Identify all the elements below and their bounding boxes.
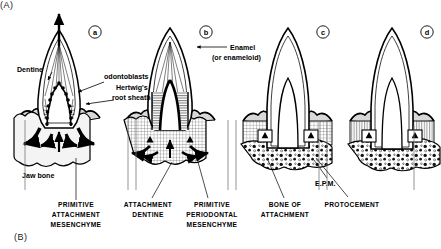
label-epm: E.P.M.	[315, 180, 335, 188]
svg-text:PERIODONTAL: PERIODONTAL	[186, 211, 237, 218]
label-dentine: Dentine	[17, 66, 43, 74]
caption-row: PRIMITIVE ATTACHMENT MESENCHYME ATTACHME…	[51, 201, 380, 228]
caption-primitive-attachment-mesenchyme: PRIMITIVE ATTACHMENT MESENCHYME	[51, 201, 102, 228]
svg-text:ATTACHMENT: ATTACHMENT	[52, 211, 100, 218]
svg-text:PRIMITIVE: PRIMITIVE	[194, 201, 230, 208]
svg-text:ATTACHMENT: ATTACHMENT	[124, 201, 172, 208]
label-enamel: Enamel	[230, 44, 255, 52]
svg-text:BONE OF: BONE OF	[269, 201, 302, 208]
svg-text:PRIMITIVE: PRIMITIVE	[58, 201, 94, 208]
svg-text:DENTINE: DENTINE	[132, 211, 164, 218]
label-hertwigs: Hertwig's	[116, 84, 148, 92]
caption-attachment-dentine: ATTACHMENT DENTINE	[124, 201, 172, 218]
svg-text:PROTOCEMENT: PROTOCEMENT	[324, 201, 379, 208]
caption-bone-of-attachment: BONE OF ATTACHMENT	[261, 201, 309, 218]
label-enameloid: (or enameloid)	[212, 54, 262, 62]
panel-d-letter: d	[425, 28, 430, 37]
panel-a: a	[14, 14, 101, 167]
label-jaw-bone: Jaw bone	[22, 172, 54, 180]
panel-b-letter: b	[204, 28, 209, 37]
label-root-sheath: root sheath	[112, 94, 151, 102]
caption-primitive-periodontal-mesenchyme: PRIMITIVE PERIODONTAL MESENCHYME	[186, 201, 237, 228]
panel-d: d	[348, 26, 440, 171]
panel-c-letter: c	[321, 28, 325, 37]
label-odontoblasts: odontoblasts	[104, 73, 149, 81]
tooth-development-diagram: a	[0, 0, 441, 249]
figure-root: (A) (B)	[0, 0, 441, 249]
caption-protocement: PROTOCEMENT	[324, 201, 379, 208]
svg-text:MESENCHYME: MESENCHYME	[51, 221, 102, 228]
svg-text:MESENCHYME: MESENCHYME	[187, 221, 238, 228]
svg-text:ATTACHMENT: ATTACHMENT	[261, 211, 309, 218]
